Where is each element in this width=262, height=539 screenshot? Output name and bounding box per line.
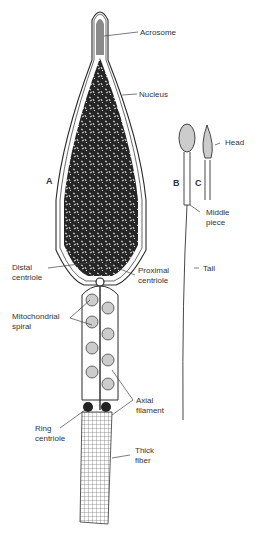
label-middle-piece: Middle piece — [206, 208, 230, 228]
label-proximal-centriole: Proximal centriole — [138, 266, 169, 286]
panel-a-label: A — [46, 176, 53, 186]
label-mitochondrial-spiral: Mitochondrial spiral — [12, 312, 60, 332]
label-distal-centriole: Distal centriole — [12, 263, 42, 283]
panel-b-label: B — [173, 178, 180, 188]
thick-fiber — [80, 412, 112, 524]
panel-c-label: C — [195, 178, 202, 188]
acrosome — [96, 19, 104, 55]
label-ring-centriole: Ring centriole — [35, 424, 65, 444]
sperm-b — [179, 124, 195, 420]
label-thick-fiber: Thick fiber — [135, 446, 154, 466]
sperm-c — [203, 125, 212, 200]
label-nucleus: Nucleus — [139, 90, 168, 100]
label-tail: Tail — [203, 264, 215, 274]
proximal-centriole — [96, 278, 104, 286]
nucleus — [64, 58, 138, 276]
label-head: Head — [225, 138, 244, 148]
label-axial-filament: Axial filament — [136, 396, 164, 416]
label-acrosome: Acrosome — [140, 28, 176, 38]
